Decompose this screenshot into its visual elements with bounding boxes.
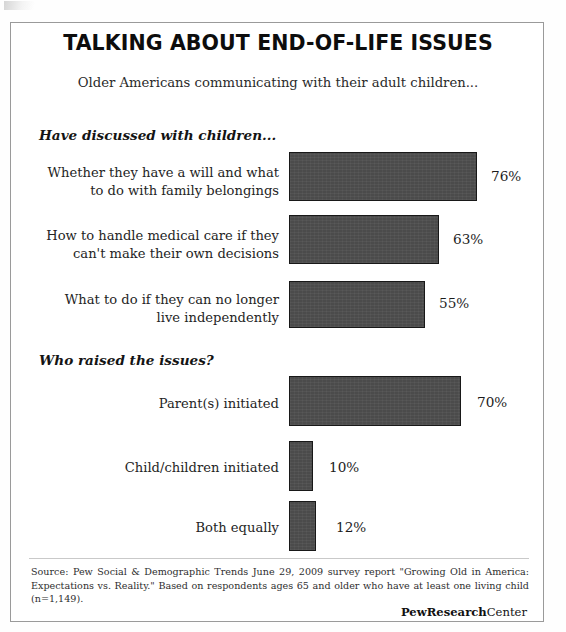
footer-divider [29,558,529,559]
page-title: TALKING ABOUT END-OF-LIFE ISSUES [11,31,545,55]
bar [289,152,477,201]
bar [289,215,439,264]
bar [289,281,425,328]
section-heading-who-raised: Who raised the issues? [39,352,214,368]
pew-research-center-logo: PewResearchCenter [401,605,527,619]
bar-value-label: 76% [491,168,521,184]
bar-value-label: 10% [329,459,359,475]
bar-category-label: What to do if they can no longer live in… [17,291,279,326]
figure-page: TALKING ABOUT END-OF-LIFE ISSUES Older A… [0,0,566,632]
bar-value-label: 70% [477,394,507,410]
chart-subtitle: Older Americans communicating with their… [11,75,545,90]
bar-value-label: 12% [336,519,366,535]
bar-category-label: Child/children initiated [17,459,279,477]
bar [289,376,461,426]
bar-category-label: How to handle medical care if they can't… [17,227,279,262]
scan-artifact [4,1,44,10]
bar-category-label: Parent(s) initiated [17,395,279,413]
brand-bold-text: PewResearch [401,605,487,619]
bar-value-label: 55% [439,295,469,311]
bar [289,441,313,491]
chart-container: TALKING ABOUT END-OF-LIFE ISSUES Older A… [10,22,544,622]
bar [289,501,316,551]
bar-category-label: Both equally [17,519,279,537]
bar-value-label: 63% [453,231,483,247]
brand-light-text: Center [487,605,527,619]
source-note: Source: Pew Social & Demographic Trends … [31,565,529,606]
bar-category-label: Whether they have a will and what to do … [17,164,279,199]
section-heading-discussed: Have discussed with children... [39,127,276,143]
